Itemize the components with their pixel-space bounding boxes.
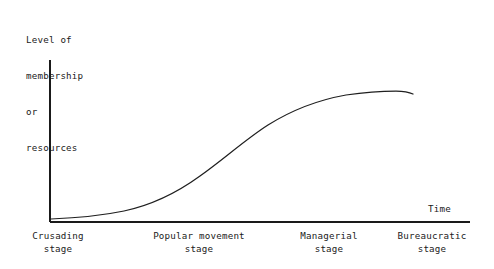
stage-crusading-line-1: Crusading: [8, 229, 108, 242]
stage-bureaucratic-line-1: Bureaucratic: [376, 229, 488, 242]
stage-label-crusading: Crusading stage: [8, 229, 108, 255]
stage-popular-line-2: stage: [134, 242, 264, 255]
y-axis-label-line-4: resources: [26, 142, 83, 154]
s-curve-diagram: Level of membership or resources Time Cr…: [0, 0, 494, 269]
stage-label-bureaucratic: Bureaucratic stage: [376, 229, 488, 255]
stage-popular-line-1: Popular movement: [134, 229, 264, 242]
stage-managerial-line-1: Managerial: [280, 229, 378, 242]
x-axis-label: Time: [428, 203, 451, 215]
stage-label-managerial: Managerial stage: [280, 229, 378, 255]
growth-curve: [51, 91, 413, 219]
stage-managerial-line-2: stage: [280, 242, 378, 255]
y-axis-label: Level of membership or resources: [26, 10, 83, 178]
y-axis-label-line-3: or: [26, 106, 83, 118]
stage-bureaucratic-line-2: stage: [376, 242, 488, 255]
stage-label-popular-movement: Popular movement stage: [134, 229, 264, 255]
y-axis-label-line-1: Level of: [26, 34, 83, 46]
stage-crusading-line-2: stage: [8, 242, 108, 255]
y-axis-label-line-2: membership: [26, 70, 83, 82]
